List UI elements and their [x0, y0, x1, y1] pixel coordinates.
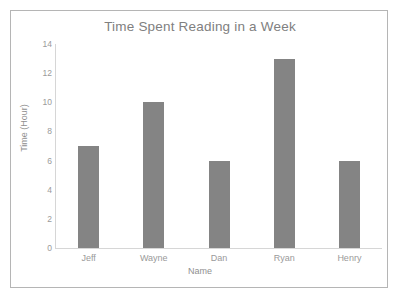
y-axis-tick-label: 10: [12, 97, 52, 107]
x-axis-line: [56, 248, 382, 249]
chart-frame: Time Spent Reading in a Week Time (Hour)…: [10, 10, 388, 288]
y-axis-tick-label: 14: [12, 39, 52, 49]
y-axis-tick-label: 2: [12, 214, 52, 224]
y-axis-tick-label: 12: [12, 68, 52, 78]
y-axis-tick-label: 8: [12, 126, 52, 136]
bar[interactable]: [274, 59, 295, 248]
y-axis-tick-label: 0: [12, 243, 52, 253]
y-axis-tick-label: 6: [12, 156, 52, 166]
y-axis-tick-label: 4: [12, 185, 52, 195]
plot-area: [56, 44, 382, 248]
chart-title: Time Spent Reading in a Week: [11, 19, 389, 34]
x-axis-tick-label: Henry: [309, 253, 389, 263]
bar[interactable]: [209, 161, 230, 248]
bar[interactable]: [339, 161, 360, 248]
bar[interactable]: [143, 102, 164, 248]
y-axis-tick-labels: 02468101214: [11, 11, 52, 289]
x-axis-title: Name: [11, 266, 389, 276]
bar[interactable]: [78, 146, 99, 248]
